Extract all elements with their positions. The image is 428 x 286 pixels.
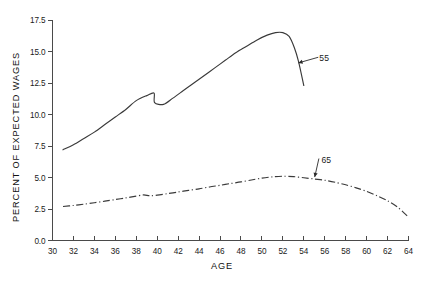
series-line-65 bbox=[63, 176, 409, 217]
y-tick-label: 10.0 bbox=[30, 111, 46, 120]
y-axis-ticklabels: 0.02.55.07.510.012.515.017.5 bbox=[30, 16, 46, 246]
series-line-55 bbox=[63, 32, 304, 150]
y-tick-label: 7.5 bbox=[34, 142, 46, 151]
x-tick-label: 64 bbox=[404, 247, 413, 256]
x-tick-label: 54 bbox=[299, 247, 308, 256]
x-tick-label: 52 bbox=[278, 247, 287, 256]
x-axis-ticks bbox=[53, 236, 409, 241]
x-tick-label: 56 bbox=[320, 247, 329, 256]
x-tick-label: 46 bbox=[216, 247, 225, 256]
x-tick-label: 60 bbox=[362, 247, 371, 256]
y-axis-title: PERCENT OF EXPECTED WAGES bbox=[11, 52, 21, 222]
annotation-group: 5565 bbox=[298, 53, 331, 177]
x-tick-label: 42 bbox=[174, 247, 183, 256]
x-tick-label: 36 bbox=[111, 247, 120, 256]
line-chart-svg: PERCENT OF EXPECTED WAGES AGE 0.02.55.07… bbox=[0, 0, 428, 286]
x-tick-label: 58 bbox=[341, 247, 350, 256]
x-tick-label: 40 bbox=[153, 247, 162, 256]
x-tick-label: 30 bbox=[48, 247, 57, 256]
y-tick-label: 17.5 bbox=[30, 16, 46, 25]
x-tick-label: 34 bbox=[90, 247, 99, 256]
y-tick-label: 2.5 bbox=[34, 205, 46, 214]
chart-figure: PERCENT OF EXPECTED WAGES AGE 0.02.55.07… bbox=[0, 0, 428, 286]
y-tick-label: 15.0 bbox=[30, 48, 46, 57]
x-tick-label: 32 bbox=[69, 247, 78, 256]
x-tick-label: 44 bbox=[195, 247, 204, 256]
annotation-arrowhead bbox=[314, 173, 318, 178]
x-tick-label: 62 bbox=[383, 247, 392, 256]
x-axis-ticklabels: 303234363840424446485052545658606264 bbox=[48, 247, 413, 256]
y-tick-label: 0.0 bbox=[34, 237, 46, 246]
x-tick-label: 38 bbox=[132, 247, 141, 256]
y-tick-label: 12.5 bbox=[30, 79, 46, 88]
x-tick-label: 48 bbox=[237, 247, 246, 256]
annotation-label: 65 bbox=[321, 155, 331, 165]
x-axis-title: AGE bbox=[211, 261, 233, 271]
y-tick-label: 5.0 bbox=[34, 174, 46, 183]
annotation-label: 55 bbox=[319, 53, 329, 63]
y-axis-ticks bbox=[48, 20, 53, 241]
x-tick-label: 50 bbox=[257, 247, 266, 256]
